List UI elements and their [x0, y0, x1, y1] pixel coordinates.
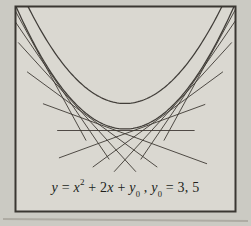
- var-y0: y: [129, 180, 135, 195]
- plus-sign: +: [114, 180, 130, 195]
- subscript-0-second: 0: [158, 189, 162, 199]
- exponent-2: 2: [80, 177, 85, 187]
- equation-caption: y = x2 + 2x + y0 , y0 = 3, 5: [15, 178, 236, 197]
- comma-separator: ,: [140, 180, 151, 195]
- equals-sign: =: [58, 180, 74, 195]
- subscript-0: 0: [136, 189, 140, 199]
- plus-2-term: + 2: [85, 180, 108, 195]
- values-3-5: = 3, 5: [162, 180, 199, 195]
- var-x: x: [74, 180, 80, 195]
- var-y0-second: y: [151, 180, 157, 195]
